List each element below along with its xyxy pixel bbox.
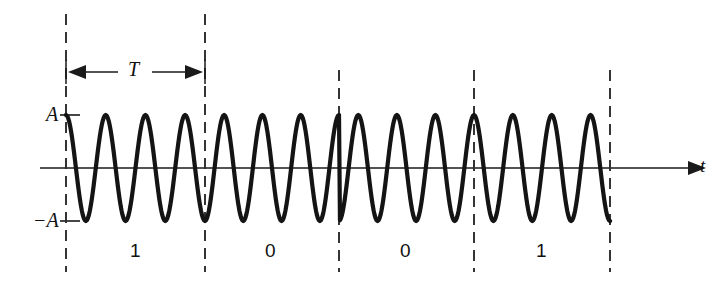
label-amplitude-positive: A xyxy=(46,104,58,124)
period-arrowhead-right xyxy=(185,65,203,79)
label-period: T xyxy=(128,59,139,79)
bpsk-waveform-figure: A −A T t 1 0 0 1 xyxy=(0,0,721,285)
time-axis xyxy=(40,161,706,175)
label-bit-1: 0 xyxy=(265,241,276,260)
label-time-axis: t xyxy=(700,156,705,175)
waveform-canvas xyxy=(0,0,721,285)
label-bit-3: 1 xyxy=(536,241,547,260)
label-amplitude-negative: −A xyxy=(33,210,59,230)
label-bit-0: 1 xyxy=(130,241,141,260)
label-bit-2: 0 xyxy=(400,241,411,260)
period-arrowhead-left xyxy=(68,65,86,79)
